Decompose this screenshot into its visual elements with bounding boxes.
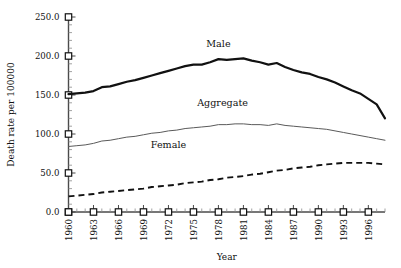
y-major-ticks	[69, 17, 76, 212]
y-axis-group: 250.0200.0150.0100.050.00.0	[35, 12, 76, 217]
x-tick-marker	[365, 209, 371, 215]
y-tick-label: 250.0	[35, 12, 60, 22]
x-tick-marker	[165, 209, 171, 215]
x-tick-labels: 1960196319661969197219751978198119841987…	[64, 218, 374, 240]
annotation-label-female: Female	[151, 139, 187, 150]
y-tick-label: 50.0	[40, 168, 59, 178]
x-tick-marker	[65, 209, 71, 215]
series-group	[69, 58, 386, 196]
x-tick-label: 1984	[264, 218, 274, 240]
x-axis-group: 1960196319661969197219751978198119841987…	[64, 205, 385, 241]
x-tick-marker	[115, 209, 121, 215]
x-tick-label: 1966	[114, 219, 124, 241]
x-tick-label: 1990	[314, 219, 324, 241]
y-tick-marker	[65, 131, 71, 137]
x-tick-label: 1996	[364, 219, 374, 241]
y-axis-title: Death rate per 100000	[6, 62, 16, 167]
x-tick-label: 1969	[139, 219, 149, 241]
y-tick-labels: 250.0200.0150.0100.050.00.0	[35, 12, 60, 217]
x-tick-marker	[265, 209, 271, 215]
series-line-female	[69, 163, 386, 197]
series-line-aggregate	[69, 124, 386, 147]
death-rate-line-chart: 250.0200.0150.0100.050.00.0 196019631966…	[0, 0, 401, 268]
x-tick-label: 1978	[214, 219, 224, 241]
x-tick-marker	[240, 209, 246, 215]
x-tick-label: 1975	[189, 219, 199, 241]
y-tick-marker	[65, 14, 71, 20]
x-axis-title: Year	[216, 252, 238, 262]
series-annotations: MaleAggregateFemale	[151, 38, 249, 150]
x-tick-label: 1963	[89, 219, 99, 241]
x-tick-label: 1960	[64, 219, 74, 241]
y-tick-marker	[65, 53, 71, 59]
x-tick-marker	[315, 209, 321, 215]
x-tick-label: 1972	[164, 219, 174, 241]
y-tick-label: 0.0	[46, 207, 60, 217]
x-tick-marker	[215, 209, 221, 215]
x-tick-marker	[90, 209, 96, 215]
chart-svg: 250.0200.0150.0100.050.00.0 196019631966…	[0, 0, 401, 268]
x-tick-marker	[140, 209, 146, 215]
x-tick-marker	[290, 209, 296, 215]
x-tick-marker	[190, 209, 196, 215]
y-tick-marker	[65, 170, 71, 176]
x-tick-label: 1993	[339, 219, 349, 241]
x-tick-label: 1987	[289, 219, 299, 241]
x-tick-label: 1981	[239, 219, 249, 241]
annotation-label-male: Male	[206, 38, 231, 49]
series-line-male	[69, 58, 386, 118]
y-tick-label: 150.0	[35, 90, 60, 100]
y-tick-label: 200.0	[35, 51, 60, 61]
x-tick-marker	[340, 209, 346, 215]
annotation-label-aggregate: Aggregate	[196, 97, 248, 108]
y-tick-label: 100.0	[35, 129, 60, 139]
